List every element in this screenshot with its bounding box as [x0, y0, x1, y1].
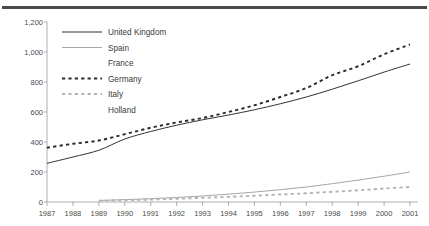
y-tick-label: 400: [30, 138, 43, 147]
top-divider-rule: [2, 6, 427, 9]
x-tick-label: 1987: [39, 209, 56, 218]
x-tick-label: 1988: [65, 209, 82, 218]
y-tick-label: 0: [39, 198, 43, 207]
y-tick-label: 800: [30, 78, 43, 87]
legend-label-france: France: [108, 59, 134, 68]
y-axis-tick-labels: 02004006008001,0001,200: [24, 18, 43, 207]
legend-label-spain: Spain: [108, 44, 129, 53]
legend-label-holland: Holland: [108, 106, 136, 115]
x-tick-label: 2001: [402, 209, 419, 218]
x-tick-label: 1992: [168, 209, 185, 218]
x-tick-label: 1991: [142, 209, 159, 218]
chart-figure: 02004006008001,0001,200 1987198819891990…: [0, 0, 429, 226]
chart-legend: United KingdomSpainFranceGermanyItalyHol…: [62, 28, 166, 115]
x-tick-label: 1996: [272, 209, 289, 218]
y-tick-label: 600: [30, 108, 43, 117]
x-tick-label: 1993: [194, 209, 211, 218]
x-tick-label: 1989: [91, 209, 108, 218]
x-tick-label: 1990: [116, 209, 133, 218]
y-tick-label: 200: [30, 168, 43, 177]
x-tick-label: 1995: [246, 209, 263, 218]
line-chart-svg: 02004006008001,0001,200 1987198819891990…: [0, 12, 429, 226]
x-axis-tick-marks: [47, 202, 410, 206]
x-tick-label: 1994: [220, 209, 237, 218]
chart-plot-area: 02004006008001,0001,200 1987198819891990…: [0, 12, 429, 226]
data-series-group: [47, 45, 410, 201]
x-tick-label: 1999: [350, 209, 367, 218]
x-tick-label: 2000: [376, 209, 393, 218]
x-axis-tick-labels: 1987198819891990199119921993199419951996…: [39, 209, 419, 218]
series-line-germany: [47, 45, 410, 148]
x-tick-label: 1998: [324, 209, 341, 218]
legend-label-germany: Germany: [108, 75, 143, 84]
y-tick-label: 1,000: [24, 48, 43, 57]
y-tick-label: 1,200: [24, 18, 43, 27]
legend-label-italy: Italy: [108, 90, 124, 99]
x-tick-label: 1997: [298, 209, 315, 218]
legend-label-united-kingdom: United Kingdom: [108, 28, 166, 37]
y-axis-tick-marks: [44, 22, 47, 202]
